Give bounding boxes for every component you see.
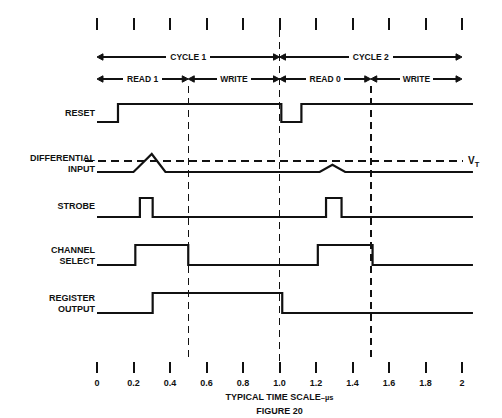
cycle-row-label-0: CYCLE 1 [170, 52, 206, 62]
phase-row-arrow-left-2 [280, 76, 286, 82]
timing-diagram-figure: CYCLE 1CYCLE 2READ 1WRITEREAD 0WRITERESE… [0, 0, 502, 418]
axis-tick-label-1: 0.2 [127, 378, 140, 388]
waveform-reset [97, 104, 473, 122]
axis-tick-label-6: 1.2 [310, 378, 323, 388]
axis-tick-label-7: 1.4 [346, 378, 359, 388]
axis-tick-label-2: 0.4 [164, 378, 177, 388]
waveform-register-output [97, 293, 473, 313]
signal-label-1-1: INPUT [68, 164, 96, 174]
phase-row-label-3: WRITE [403, 74, 431, 84]
axis-tick-label-9: 1.8 [419, 378, 432, 388]
signal-label-3-1: SELECT [59, 256, 95, 266]
figure-caption: FIGURE 20 [256, 406, 303, 416]
axis-tick-label-8: 1.6 [383, 378, 396, 388]
signal-label-0-0: RESET [65, 108, 96, 118]
axis-title: TYPICAL TIME SCALE–µs [225, 392, 333, 402]
signal-label-4-0: REGISTER [49, 293, 96, 303]
cycle-row-arrow-left-0 [97, 54, 103, 60]
cycle-row-label-1: CYCLE 2 [353, 52, 389, 62]
waveform-strobe [97, 198, 473, 217]
phase-row-label-2: READ 0 [310, 74, 341, 84]
axis-tick-label-3: 0.6 [200, 378, 213, 388]
phase-row-label-0: READ 1 [127, 74, 158, 84]
cycle-row-arrow-left-1 [280, 54, 286, 60]
signal-label-4-1: OUTPUT [58, 304, 96, 314]
waveform-differential-input [97, 154, 473, 172]
phase-row-label-1: WRITE [220, 74, 248, 84]
threshold-label: VT [468, 155, 480, 169]
waveform-channel-select [97, 245, 473, 265]
axis-tick-label-0: 0 [94, 378, 99, 388]
signal-label-2-0: STROBE [57, 201, 95, 211]
phase-row-arrow-left-1 [188, 76, 194, 82]
cycle-row-arrow-right-1 [456, 54, 462, 60]
timing-diagram-canvas: CYCLE 1CYCLE 2READ 1WRITEREAD 0WRITERESE… [0, 0, 502, 418]
phase-row-arrow-left-3 [371, 76, 377, 82]
phase-row-arrow-right-3 [456, 76, 462, 82]
axis-tick-label-10: 2 [459, 378, 464, 388]
phase-row-arrow-left-0 [97, 76, 103, 82]
axis-tick-label-4: 0.8 [237, 378, 250, 388]
top-tick-row [97, 18, 462, 30]
axis-tick-label-5: 1.0 [273, 378, 286, 388]
signal-label-3-0: CHANNEL [51, 245, 96, 255]
